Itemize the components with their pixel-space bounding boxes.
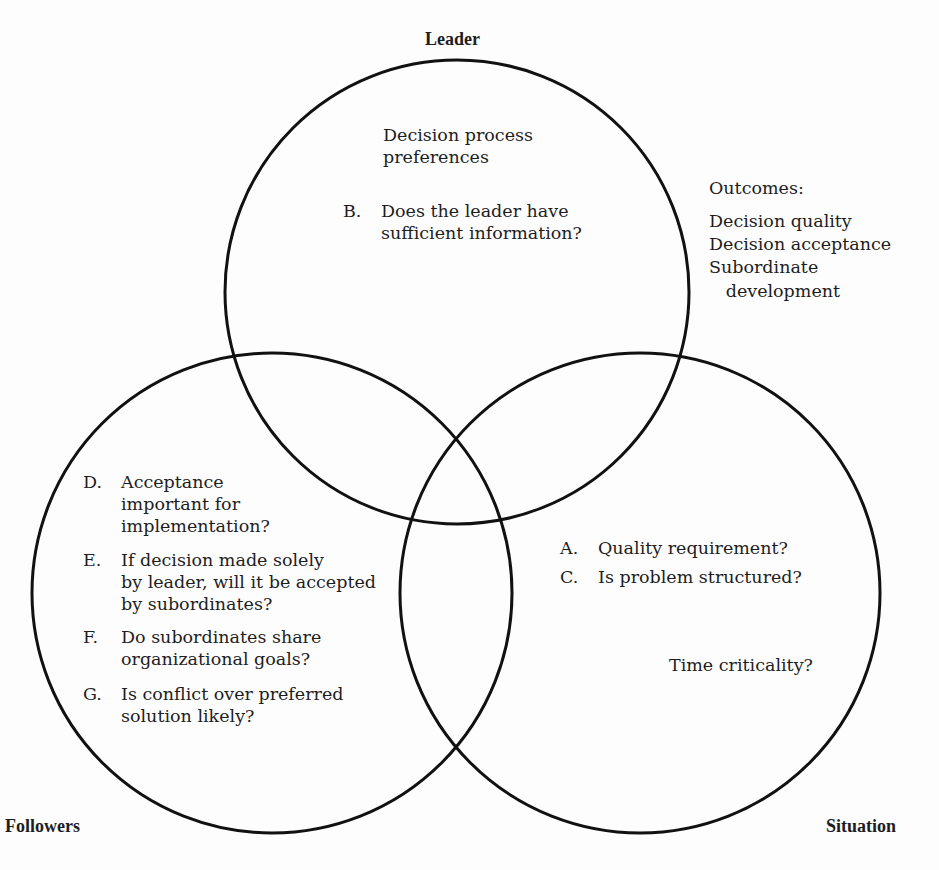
- question-text: Do subordinates share organizational goa…: [121, 626, 321, 670]
- venn-diagram: Leader Followers Situation Decision proc…: [0, 0, 939, 870]
- question-letter: B.: [343, 200, 361, 222]
- followers-label: Followers: [5, 816, 80, 837]
- question-letter: E.: [83, 549, 101, 571]
- outcome-line: Decision acceptance: [709, 233, 891, 255]
- outcome-line: Decision quality: [709, 210, 852, 232]
- question-letter: A.: [560, 537, 578, 559]
- outcome-line: development: [709, 280, 840, 302]
- question-c: C. Is problem structured?: [560, 566, 880, 588]
- leader-label: Leader: [425, 29, 480, 50]
- question-a: A. Quality requirement?: [560, 537, 880, 559]
- question-letter: F.: [83, 626, 98, 648]
- question-b: B. Does the leader have sufficient infor…: [343, 200, 643, 244]
- situation-label: Situation: [826, 816, 896, 837]
- question-f: F. Do subordinates share organizational …: [83, 626, 443, 672]
- situation-circle: [400, 353, 880, 833]
- question-text: Quality requirement?: [598, 537, 788, 559]
- question-letter: G.: [83, 683, 102, 705]
- question-text: If decision made solely by leader, will …: [121, 549, 376, 615]
- question-e: E. If decision made solely by leader, wi…: [83, 549, 443, 619]
- question-text: Is problem structured?: [598, 566, 802, 588]
- question-letter: C.: [560, 566, 578, 588]
- time-criticality: Time criticality?: [669, 654, 813, 676]
- question-text: Is conflict over preferred solution like…: [121, 683, 343, 727]
- decision-process-preferences: Decision process preferences: [383, 124, 533, 168]
- question-letter: D.: [83, 471, 102, 493]
- question-text: Acceptance important for implementation?: [121, 471, 270, 537]
- question-g: G. Is conflict over preferred solution l…: [83, 683, 443, 729]
- outcome-line: Subordinate: [709, 256, 818, 278]
- question-d: D. Acceptance important for implementati…: [83, 471, 443, 541]
- outcomes-title: Outcomes:: [709, 177, 804, 199]
- question-text: Does the leader have sufficient informat…: [381, 200, 582, 244]
